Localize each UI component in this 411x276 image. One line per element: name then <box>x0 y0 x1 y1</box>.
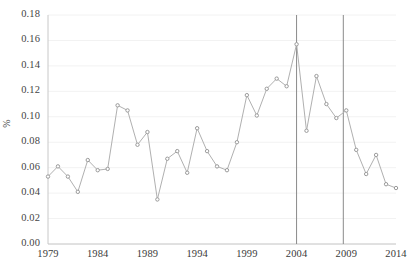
data-point-marker <box>76 190 79 193</box>
data-point-marker <box>46 175 49 178</box>
y-tick-label: 0.04 <box>6 186 40 197</box>
data-point-marker <box>146 130 149 133</box>
data-point-marker <box>394 186 397 189</box>
data-point-marker <box>325 102 328 105</box>
data-point-marker <box>166 157 169 160</box>
y-tick-label: 0.06 <box>6 161 40 172</box>
x-tick-label: 1979 <box>28 248 68 259</box>
data-point-marker <box>275 77 278 80</box>
data-point-marker <box>176 149 179 152</box>
data-point-marker <box>245 93 248 96</box>
data-point-marker <box>235 141 238 144</box>
y-tick-label: 0.00 <box>6 237 40 248</box>
x-tick-label: 1984 <box>78 248 118 259</box>
data-point-marker <box>136 143 139 146</box>
data-point-marker <box>106 167 109 170</box>
data-point-marker <box>255 114 258 117</box>
data-point-marker <box>215 165 218 168</box>
data-point-marker <box>364 172 367 175</box>
x-tick-label: 2014 <box>376 248 411 259</box>
x-tick-label: 1994 <box>177 248 217 259</box>
data-point-marker <box>335 116 338 119</box>
data-point-marker <box>116 104 119 107</box>
data-point-marker <box>285 85 288 88</box>
data-point-marker <box>305 129 308 132</box>
y-tick-label: 0.08 <box>6 135 40 146</box>
x-tick-label: 2009 <box>326 248 366 259</box>
data-point-marker <box>384 183 387 186</box>
data-point-marker <box>315 74 318 77</box>
y-tick-label: 0.02 <box>6 212 40 223</box>
y-tick-label: 0.12 <box>6 84 40 95</box>
data-point-marker <box>225 169 228 172</box>
data-point-marker <box>126 109 129 112</box>
data-point-marker <box>186 171 189 174</box>
data-point-marker <box>355 148 358 151</box>
data-point-marker <box>195 127 198 130</box>
data-point-marker <box>156 198 159 201</box>
x-tick-label: 2004 <box>277 248 317 259</box>
data-point-marker <box>265 87 268 90</box>
data-point-marker <box>205 149 208 152</box>
y-tick-label: 0.18 <box>6 8 40 19</box>
x-tick-label: 1989 <box>127 248 167 259</box>
x-tick-label: 1999 <box>227 248 267 259</box>
data-point-marker <box>345 109 348 112</box>
data-point-marker <box>56 165 59 168</box>
data-point-marker <box>96 169 99 172</box>
data-point-marker <box>66 175 69 178</box>
y-tick-label: 0.16 <box>6 33 40 44</box>
vertical-reference-lines <box>297 15 344 244</box>
data-point-marker <box>86 158 89 161</box>
y-tick-label: 0.14 <box>6 59 40 70</box>
data-point-marker <box>374 153 377 156</box>
y-tick-label: 0.10 <box>6 110 40 121</box>
data-point-marker <box>295 43 298 46</box>
